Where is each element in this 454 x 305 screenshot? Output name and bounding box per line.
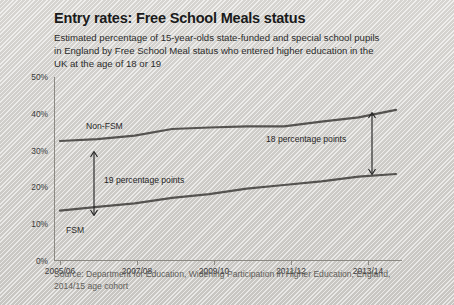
y-tick-label-30: 30% bbox=[18, 146, 48, 156]
x-tick-3 bbox=[291, 261, 292, 265]
y-tick-label-10: 10% bbox=[18, 219, 48, 229]
annotation-left-gap: 19 percentage points bbox=[104, 175, 184, 185]
chart-subtitle: Estimated percentage of 15-year-olds sta… bbox=[54, 31, 384, 71]
x-tick-4 bbox=[368, 261, 369, 265]
x-tick-0 bbox=[60, 261, 61, 265]
page-title: Entry rates: Free School Meals status bbox=[54, 10, 305, 26]
annotation-right-gap: 18 percentage points bbox=[266, 134, 346, 144]
chart-card: Entry rates: Free School Meals status Es… bbox=[0, 0, 454, 305]
source-note: Source: Department for Education, Wideni… bbox=[54, 268, 404, 292]
y-tick-label-50: 50% bbox=[18, 72, 48, 82]
series-label-non-fsm: Non-FSM bbox=[86, 121, 123, 131]
gap-arrow-right bbox=[369, 113, 376, 175]
y-tick-label-20: 20% bbox=[18, 182, 48, 192]
chart-plot-area: 50% 40% 30% 20% 10% 0% 2005/06 2007/08 2… bbox=[54, 77, 402, 261]
x-tick-2 bbox=[214, 261, 215, 265]
series-label-fsm: FSM bbox=[66, 225, 84, 235]
y-tick-label-40: 40% bbox=[18, 109, 48, 119]
x-tick-1 bbox=[137, 261, 138, 265]
y-tick-label-0: 0% bbox=[18, 256, 48, 266]
chart-lines-svg bbox=[54, 77, 402, 261]
